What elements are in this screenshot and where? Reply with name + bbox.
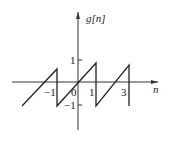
x-tick-label-3: 3 (121, 86, 127, 98)
x-tick-label-0: 0 (71, 86, 77, 98)
x-tick-label-neg1: −1 (44, 86, 56, 98)
y-axis-label: g[n] (86, 12, 106, 24)
y-axis-arrow-icon (76, 12, 80, 19)
y-tick-label-neg1: −1 (64, 99, 76, 111)
sawtooth-chart: g[n] n −1 0 1 3 1 −1 (0, 0, 170, 144)
x-tick-label-1: 1 (89, 86, 95, 98)
y-tick-label-1: 1 (70, 54, 76, 66)
x-axis-label: n (153, 83, 159, 95)
